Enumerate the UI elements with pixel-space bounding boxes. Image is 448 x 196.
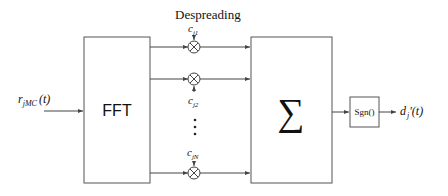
code-label-2: cj2 <box>188 94 199 109</box>
output-signal-label: dj'(t) <box>400 104 423 120</box>
ellipsis-dots <box>194 119 197 136</box>
code-label-1: cj1 <box>188 22 198 37</box>
branch-lines <box>150 47 250 173</box>
despreading-title: Despreading <box>175 7 241 22</box>
sgn-label: Sgn() <box>355 107 375 117</box>
mixer-n <box>188 161 200 179</box>
despreading-block-diagram: Despreading rjMC(t) FFT cj1 cj2 cjN <box>0 0 448 196</box>
code-label-n: cjN <box>187 146 199 161</box>
svg-text:rjMC(t): rjMC(t) <box>18 92 50 108</box>
mixer-1 <box>188 35 200 53</box>
input-signal-label: rjMC(t) <box>18 92 50 108</box>
fft-label: FFT <box>102 102 132 119</box>
mixer-2 <box>188 73 200 92</box>
sigma-icon: ∑ <box>277 91 304 134</box>
